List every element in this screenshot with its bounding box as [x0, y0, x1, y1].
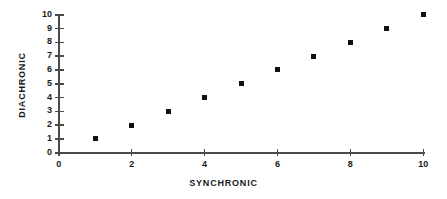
data-point: [93, 136, 98, 141]
y-axis-tick: [55, 28, 64, 30]
y-axis-tick-label: 5: [38, 79, 52, 88]
y-axis-tick: [55, 55, 64, 57]
data-point: [275, 67, 280, 72]
y-axis-tick-label: 10: [38, 10, 52, 19]
y-axis-tick: [55, 69, 64, 71]
y-axis-tick-label: 7: [38, 51, 52, 60]
y-axis-tick: [55, 97, 64, 99]
x-axis-tick-label: 2: [122, 160, 142, 169]
x-axis-tick-label: 4: [195, 160, 215, 169]
y-axis-tick: [55, 42, 64, 44]
x-axis-tick: [58, 149, 60, 156]
data-point: [421, 12, 426, 17]
data-point: [202, 95, 207, 100]
x-axis-tick-label: 0: [49, 160, 69, 169]
x-axis-tick: [350, 149, 352, 156]
y-axis-tick-label: 4: [38, 93, 52, 102]
data-point: [311, 54, 316, 59]
y-axis-tick: [55, 83, 64, 85]
x-axis-tick: [277, 149, 279, 156]
y-axis-tick-label: 3: [38, 106, 52, 115]
y-axis-tick-label: 2: [38, 120, 52, 129]
x-axis-tick-label: 10: [413, 160, 433, 169]
y-axis-tick-label: 6: [38, 65, 52, 74]
y-axis-tick: [55, 14, 64, 16]
y-axis-tick: [55, 124, 64, 126]
y-axis-tick-label: 9: [38, 24, 52, 33]
y-axis-title-container: DIACHRONIC: [10, 30, 34, 140]
y-axis-tick-label: 1: [38, 134, 52, 143]
data-point: [384, 26, 389, 31]
y-axis-tick: [55, 138, 64, 140]
y-axis-title: DIACHRONIC: [17, 52, 27, 118]
y-axis-tick-label: 8: [38, 37, 52, 46]
y-axis-tick: [55, 111, 64, 113]
x-axis-tick: [131, 149, 133, 156]
data-point: [348, 40, 353, 45]
x-axis-title: SYNCHRONIC: [0, 178, 447, 188]
scatter-plot-figure: 012345678910 0246810 DIACHRONIC SYNCHRON…: [0, 0, 447, 199]
y-axis-tick: [55, 152, 64, 154]
data-point: [239, 81, 244, 86]
x-axis-tick: [204, 149, 206, 156]
x-axis-tick-label: 6: [267, 160, 287, 169]
x-axis-line: [58, 152, 425, 154]
data-point: [166, 109, 171, 114]
y-axis-tick-label: 0: [38, 148, 52, 157]
x-axis-tick: [423, 149, 425, 156]
x-axis-tick-label: 8: [340, 160, 360, 169]
data-point: [129, 123, 134, 128]
